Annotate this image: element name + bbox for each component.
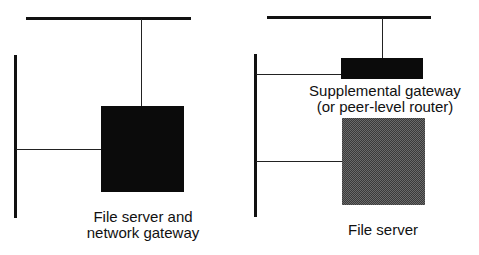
- label-line-2: network gateway: [78, 225, 208, 241]
- right-gateway-connector-line: [256, 74, 342, 75]
- file-server-node: [342, 118, 425, 205]
- supplemental-gateway-label: Supplemental gateway (or peer-level rout…: [300, 83, 470, 115]
- right-top-network-bus: [267, 16, 431, 19]
- file-server-gateway-label: File server and network gateway: [78, 209, 208, 241]
- right-top-drop-line: [382, 18, 383, 59]
- label-line-2: (or peer-level router): [300, 99, 470, 115]
- label-line-1: File server and: [78, 209, 208, 225]
- left-side-connector-line: [16, 149, 102, 150]
- file-server-label: File server: [333, 222, 433, 238]
- left-top-drop-line: [141, 19, 142, 107]
- left-top-network-bus: [26, 17, 191, 20]
- label-line-1: Supplemental gateway: [300, 83, 470, 99]
- right-side-network-bus: [254, 54, 257, 217]
- left-side-network-bus: [14, 55, 17, 218]
- label-line-1: File server: [333, 222, 433, 238]
- supplemental-gateway-node: [341, 58, 423, 79]
- file-server-gateway-node: [101, 106, 184, 192]
- right-server-connector-line: [256, 161, 343, 162]
